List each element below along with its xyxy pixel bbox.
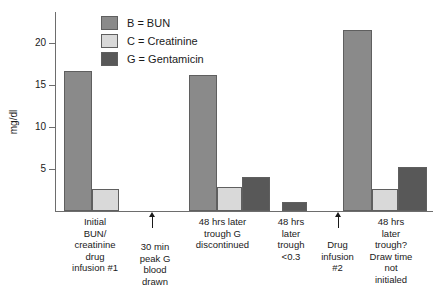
y-tick-label-20-wrap: 20	[14, 38, 46, 48]
bar-group-2	[140, 12, 196, 211]
y-tick-5	[49, 169, 56, 170]
x-label-group-2: 30 minpeak Gblooddrawn	[124, 241, 186, 287]
up-arrow-icon-30-min-peak	[148, 212, 157, 228]
y-tick-label-10: 10	[20, 122, 46, 132]
bar-bun-3	[189, 75, 217, 211]
bar-gentamicin-6	[398, 167, 427, 211]
y-tick-15	[49, 85, 56, 86]
plot-area	[56, 12, 433, 211]
x-label-group-3: 48 hrs latertrough Gdiscontinued	[182, 216, 263, 251]
x-label-group-1: InitialBUN/creatininedruginfusion #1	[57, 216, 133, 274]
y-tick-label-20: 20	[20, 38, 46, 48]
y-tick-label-10-wrap: 10	[14, 122, 46, 132]
bar-creatinine-6	[372, 189, 398, 211]
x-label-group-5: Druginfusion#2	[310, 239, 365, 274]
bar-gentamicin-4	[282, 202, 307, 211]
x-label-group-4: 48 hrslatertrough<0.3	[266, 216, 316, 262]
up-arrow-icon-drug-infusion-2	[334, 212, 343, 228]
y-tick-label-5-wrap: 5	[14, 164, 46, 174]
y-tick-20	[49, 43, 56, 44]
x-label-group-6: 48 hrslatertrough?Draw timenotinitialed	[358, 216, 424, 285]
y-tick-label-5: 5	[20, 164, 46, 174]
bun-creatinine-gentamicin-bar-chart: mg/dl 20 15 10 5 B = BUN C = Creatinine …	[0, 0, 441, 299]
bar-creatinine-3	[217, 187, 242, 211]
y-tick-10	[49, 127, 56, 128]
bar-bun-1	[64, 71, 92, 211]
bar-group-6	[343, 12, 429, 211]
bar-group-1	[64, 12, 120, 211]
bar-group-4	[280, 12, 336, 211]
y-tick-label-15: 15	[20, 80, 46, 90]
bar-creatinine-1	[92, 189, 119, 211]
bar-group-3	[189, 12, 271, 211]
y-tick-label-15-wrap: 15	[14, 80, 46, 90]
x-axis-line	[55, 211, 433, 212]
bar-bun-6	[343, 30, 372, 211]
bar-gentamicin-3	[242, 177, 270, 211]
